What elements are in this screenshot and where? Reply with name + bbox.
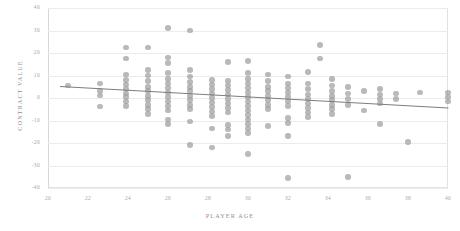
data-point [225, 127, 231, 133]
gridline [48, 143, 448, 144]
data-point [445, 99, 451, 105]
data-point [377, 86, 383, 92]
data-point [361, 88, 367, 94]
x-tick-label: 34 [316, 196, 340, 201]
data-point [209, 145, 215, 151]
x-tick-label: 36 [356, 196, 380, 201]
data-point [285, 133, 291, 139]
x-tick-label: 24 [116, 196, 140, 201]
data-point [187, 142, 193, 148]
data-point [165, 25, 171, 31]
data-point [225, 133, 231, 139]
data-point [209, 126, 215, 132]
x-tick-label: 26 [156, 196, 180, 201]
x-tick-label: 28 [196, 196, 220, 201]
data-point [305, 114, 311, 120]
data-point [285, 103, 291, 109]
data-point [305, 69, 311, 75]
x-tick-label: 22 [76, 196, 100, 201]
y-tick-label: -30 [0, 163, 40, 168]
data-point [317, 42, 323, 48]
data-point [405, 139, 411, 145]
gridline [48, 8, 448, 9]
x-tick-label: 30 [236, 196, 260, 201]
x-tick-label: 32 [276, 196, 300, 201]
x-tick-label: 38 [396, 196, 420, 201]
data-point [265, 123, 271, 129]
data-point [165, 121, 171, 127]
x-axis-label: PLAYER AGE [0, 212, 460, 219]
gridline [48, 53, 448, 54]
data-point [209, 113, 215, 119]
data-point [285, 175, 291, 181]
data-point [97, 104, 103, 110]
scatter-chart: 403020100-10-20-30-40 202224262830323436… [0, 0, 460, 231]
gridline [48, 31, 448, 32]
data-point [165, 108, 171, 114]
data-point [265, 72, 271, 78]
data-point [187, 28, 193, 34]
data-point [329, 111, 335, 117]
data-point [345, 84, 351, 90]
data-point [123, 103, 129, 109]
data-point [417, 90, 423, 96]
y-tick-label: 30 [0, 28, 40, 33]
data-point [225, 59, 231, 65]
y-tick-label: -20 [0, 140, 40, 145]
data-point [377, 121, 383, 127]
data-point [345, 174, 351, 180]
data-point [245, 130, 251, 136]
y-axis-label: CONTRACT VALUE [16, 51, 23, 141]
data-point [145, 67, 151, 73]
gridline [48, 166, 448, 167]
data-point [393, 96, 399, 102]
y-tick-label: -40 [0, 185, 40, 190]
data-point [245, 151, 251, 157]
data-point [187, 106, 193, 112]
data-point [329, 76, 335, 82]
data-point [245, 58, 251, 64]
x-tick-label: 20 [36, 196, 60, 201]
data-point [285, 120, 291, 126]
x-tick-label: 40 [436, 196, 460, 201]
y-tick-label: 40 [0, 5, 40, 10]
gridline [48, 188, 448, 189]
data-point [145, 111, 151, 117]
data-point [97, 93, 103, 99]
data-point [361, 108, 367, 114]
data-point [123, 45, 129, 51]
data-point [305, 86, 311, 92]
data-point [265, 106, 271, 112]
data-point [145, 45, 151, 51]
data-point [97, 81, 103, 87]
data-point [187, 67, 193, 73]
data-point [165, 60, 171, 66]
